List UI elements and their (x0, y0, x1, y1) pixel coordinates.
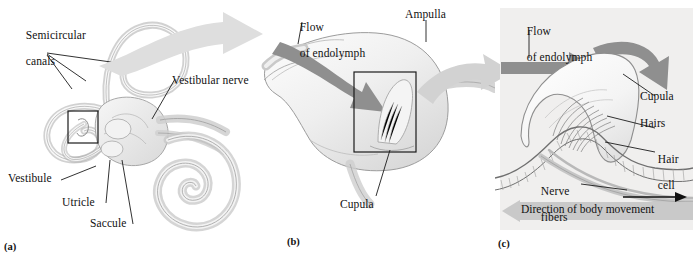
panel-b-tag: (b) (287, 236, 300, 247)
label-hair-cell-line2: cell (658, 179, 675, 191)
label-nerve-fibers-line1: Nerve (541, 185, 570, 197)
label-flow-b-line1: Flow (300, 21, 324, 33)
panel-c: Direction of body movement Flow of endol… (495, 0, 693, 264)
label-semicircular-canals-line2: canals (26, 55, 55, 67)
label-hairs: Hairs (640, 117, 665, 130)
label-nerve-fibers: Nerve fibers (523, 172, 569, 237)
label-cupula-c: Cupula (640, 90, 674, 103)
label-flow-of-endolymph-b: Flow of endolymph (282, 8, 365, 73)
panel-a-tag: (a) (4, 241, 16, 252)
label-utricle: Utricle (62, 196, 95, 209)
vestibular-system-figure: Semicircular canals Vestibule Utricle Sa… (0, 0, 693, 264)
label-hair-cell: Hair cell (640, 140, 679, 205)
label-ampulla: Ampulla (405, 8, 446, 21)
label-flow-b-line2: of endolymph (300, 47, 365, 59)
label-nerve-fibers-line2: fibers (541, 211, 568, 223)
label-hair-cell-line1: Hair (658, 153, 679, 165)
label-semicircular-canals: Semicircular canals (8, 16, 86, 81)
label-semicircular-canals-line1: Semicircular (26, 29, 86, 41)
label-vestibule: Vestibule (8, 172, 52, 185)
label-flow-c-line2: of endolymph (527, 51, 592, 63)
cochlea (158, 136, 237, 227)
label-saccule: Saccule (90, 217, 126, 230)
panel-c-tag: (c) (498, 238, 510, 249)
label-cupula-b: Cupula (340, 198, 374, 211)
panel-b: Flow of endolymph Ampulla Cupula (b) (250, 0, 495, 264)
label-flow-of-endolymph-c: Flow of endolymph (509, 12, 592, 77)
label-flow-c-line1: Flow (527, 25, 551, 37)
